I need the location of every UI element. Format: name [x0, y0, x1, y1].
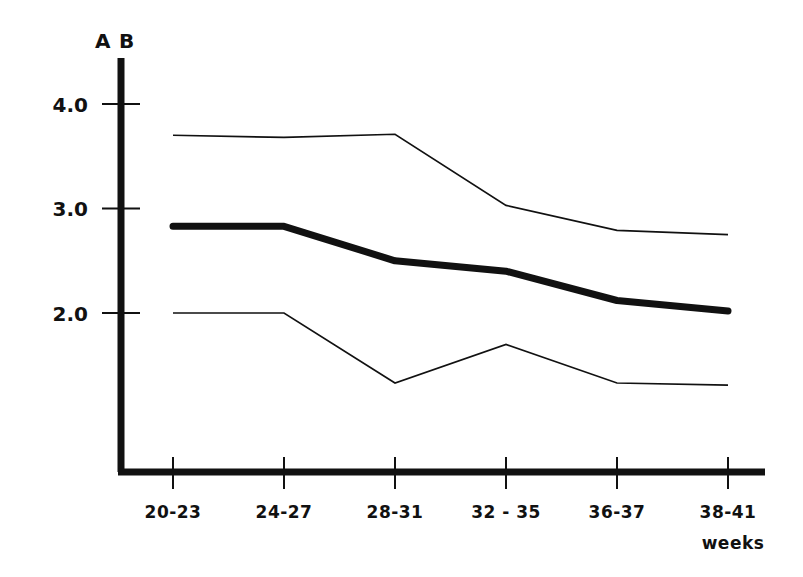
- y-tick-label-3: 3.0: [53, 197, 88, 221]
- y-tick-label-4: 4.0: [53, 93, 88, 117]
- x-tick-label-3: 32 - 35: [471, 502, 541, 522]
- x-tick-label-1: 24-27: [256, 502, 313, 522]
- x-tick-label-4: 36-37: [589, 502, 646, 522]
- series-line-median: [173, 226, 728, 311]
- x-axis-unit-label: weeks: [702, 533, 765, 553]
- chart-container: 4.0 3.0 2.0 A B 20-23 24-27 28-31 32 - 3…: [0, 0, 803, 577]
- series-line-upper: [173, 134, 728, 234]
- group-label-a: A: [95, 29, 111, 53]
- x-tick-label-0: 20-23: [145, 502, 202, 522]
- line-chart-svg: 4.0 3.0 2.0 A B 20-23 24-27 28-31 32 - 3…: [0, 0, 803, 577]
- x-tick-label-5: 38-41: [700, 502, 757, 522]
- x-tick-label-2: 28-31: [367, 502, 424, 522]
- group-label-b: B: [119, 29, 134, 53]
- y-tick-label-2: 2.0: [53, 302, 88, 326]
- series-line-lower: [173, 313, 728, 385]
